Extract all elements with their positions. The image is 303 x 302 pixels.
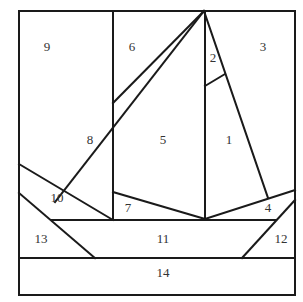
piece-10-edge	[19, 164, 113, 220]
sail-2-separator	[205, 74, 225, 86]
label-piece-4: 4	[265, 200, 272, 215]
label-piece-13: 13	[35, 231, 48, 246]
label-piece-6: 6	[129, 39, 136, 54]
label-piece-3: 3	[260, 39, 267, 54]
label-piece-2: 2	[210, 50, 217, 65]
label-piece-1: 1	[226, 132, 233, 147]
label-piece-7: 7	[125, 200, 132, 215]
label-piece-12: 12	[275, 231, 288, 246]
piece-labels: 1 2 3 4 5 6 7 8 9 10 11 12 13 14	[35, 39, 288, 280]
label-piece-5: 5	[160, 132, 167, 147]
label-piece-14: 14	[157, 265, 171, 280]
sail-1-edge	[204, 11, 268, 198]
label-piece-10: 10	[51, 190, 64, 205]
sailboat-block-diagram: 1 2 3 4 5 6 7 8 9 10 11 12 13 14	[0, 0, 303, 302]
label-piece-11: 11	[157, 231, 170, 246]
label-piece-8: 8	[87, 132, 94, 147]
sail-6-edge	[113, 11, 204, 103]
label-piece-9: 9	[44, 39, 51, 54]
